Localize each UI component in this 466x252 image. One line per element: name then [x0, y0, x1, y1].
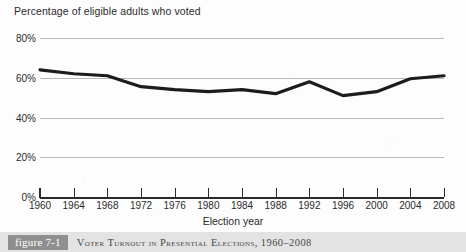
x-tick-label: 1976	[164, 200, 186, 211]
figure-caption-text: Voter Turnout in Presential Elections, 1…	[77, 237, 312, 248]
y-tick-label: 20%	[2, 152, 36, 163]
x-tick-mark	[410, 188, 411, 197]
x-tick-label: 2004	[399, 200, 421, 211]
y-tick-label: 40%	[2, 112, 36, 123]
x-tick-mark	[141, 188, 142, 197]
voter-turnout-line	[40, 70, 444, 96]
y-tick-label: 60%	[2, 72, 36, 83]
x-tick-mark	[309, 188, 310, 197]
x-tick-mark	[74, 188, 75, 197]
x-tick-label: 1968	[96, 200, 118, 211]
gridline-20	[40, 157, 444, 158]
x-tick-mark	[276, 188, 277, 197]
x-tick-mark	[444, 188, 445, 197]
figure-caption-bar: figure 7-1 Voter Turnout in Presential E…	[0, 232, 466, 252]
x-axis-line	[40, 197, 444, 199]
x-tick-mark	[377, 188, 378, 197]
figure-number-badge: figure 7-1	[8, 235, 68, 250]
x-tick-label: 1960	[29, 200, 51, 211]
x-tick-label: 1992	[298, 200, 320, 211]
x-tick-mark	[175, 188, 176, 197]
x-tick-mark	[343, 188, 344, 197]
x-tick-label: 1964	[63, 200, 85, 211]
x-tick-label: 2008	[433, 200, 455, 211]
gridline-80	[40, 38, 444, 39]
x-tick-label: 1988	[265, 200, 287, 211]
gridline-40	[40, 118, 444, 119]
x-tick-label: 1996	[332, 200, 354, 211]
x-axis-label: Election year	[0, 215, 466, 227]
figure-panel: Percentage of eligible adults who voted …	[0, 0, 466, 252]
x-tick-label: 1984	[231, 200, 253, 211]
chart-title: Percentage of eligible adults who voted	[14, 5, 201, 17]
x-tick-mark	[40, 188, 41, 197]
gridline-60	[40, 78, 444, 79]
x-tick-label: 1980	[197, 200, 219, 211]
x-tick-label: 1972	[130, 200, 152, 211]
y-tick-label: 80%	[2, 33, 36, 44]
x-tick-mark	[208, 188, 209, 197]
x-tick-mark	[107, 188, 108, 197]
x-tick-label: 2000	[366, 200, 388, 211]
x-tick-mark	[242, 188, 243, 197]
